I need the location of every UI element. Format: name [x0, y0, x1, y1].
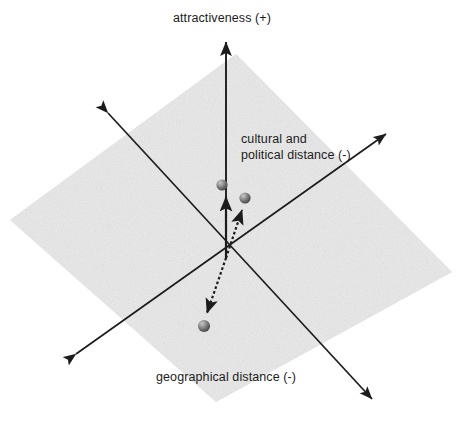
diagram-canvas: attractiveness (+) cultural andpolitical…: [0, 0, 469, 440]
data-point-geographical: [198, 320, 210, 332]
axis-label-attractiveness: attractiveness (+): [173, 10, 271, 26]
axis-label-geographical-distance: geographical distance (-): [156, 369, 296, 385]
axis-label-cultural-political-distance: cultural andpolitical distance (-): [241, 131, 351, 163]
axis-label-cultural-line1: cultural and: [241, 132, 307, 146]
attractiveness-field: [10, 54, 452, 402]
data-point-attractiveness: [216, 179, 227, 190]
axis-label-cultural-line2: political distance (-): [241, 148, 351, 162]
data-point-cultural-political: [239, 192, 250, 203]
